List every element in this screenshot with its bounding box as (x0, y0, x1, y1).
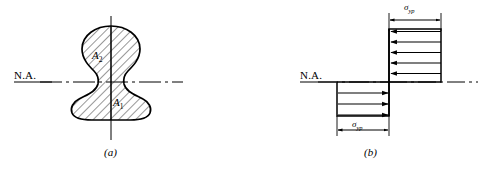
area-label-lower-subscript: 1 (120, 102, 124, 111)
figure-canvas: N.A. N.A. A2 A1 σyp σyp (a) (b) (0, 0, 492, 172)
area-label-upper-symbol: A (92, 49, 99, 61)
area-label-upper-subscript: 2 (99, 55, 103, 64)
sigma-label-lower: σyp (352, 119, 363, 131)
area-label-lower: A1 (113, 96, 123, 111)
caption-panel-a: (a) (104, 146, 117, 158)
lower-stress-block (337, 82, 389, 116)
area-label-lower-symbol: A (113, 96, 120, 108)
sigma-label-upper: σyp (404, 2, 415, 14)
sigma-subscript-lower: yp (356, 124, 362, 131)
na-label-left: N.A. (14, 69, 36, 81)
na-label-right: N.A. (300, 69, 322, 81)
figure-svg (0, 0, 492, 172)
area-label-upper: A2 (92, 49, 102, 64)
caption-panel-b: (b) (364, 146, 377, 158)
sigma-subscript-upper: yp (408, 7, 414, 14)
